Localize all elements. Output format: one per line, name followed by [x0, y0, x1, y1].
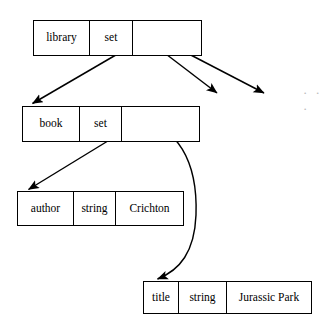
node-title[interactable]: title string Jurassic Park [143, 281, 312, 314]
node-library-cell-value [133, 21, 201, 55]
continuation-ellipsis: · · · [303, 85, 334, 117]
node-author-cell-value: Crichton [116, 192, 183, 225]
node-book-cell-type: set [80, 107, 122, 141]
node-title-cell-type: string [179, 282, 227, 313]
node-author[interactable]: author string Crichton [17, 191, 184, 226]
node-library-cell-type: set [90, 21, 133, 55]
node-library-cell-name: library [34, 21, 90, 55]
node-title-cell-value: Jurassic Park [227, 282, 311, 313]
node-book-cell-value [122, 107, 199, 141]
diagram-canvas: library set book set author string Crich… [0, 0, 334, 333]
node-author-cell-type: string [74, 192, 116, 225]
node-title-cell-name: title [144, 282, 179, 313]
node-book[interactable]: book set [22, 106, 200, 142]
node-book-cell-name: book [23, 107, 80, 141]
node-author-cell-name: author [18, 192, 74, 225]
node-library[interactable]: library set [33, 20, 202, 56]
